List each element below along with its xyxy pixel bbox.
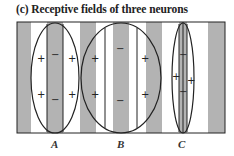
label-c: C <box>178 138 186 150</box>
minus-sign: − <box>179 86 187 97</box>
minus-sign: − <box>51 94 59 105</box>
plus-sign: + <box>91 53 99 64</box>
plus-sign: + <box>68 89 76 100</box>
plus-sign: + <box>37 53 45 64</box>
plus-sign: + <box>141 89 149 100</box>
minus-sign: − <box>51 49 59 60</box>
minus-sign: − <box>179 49 187 60</box>
plus-sign: + <box>187 75 195 86</box>
plus-sign: + <box>91 89 99 100</box>
label-b: B <box>116 138 124 150</box>
plus-sign: + <box>68 53 76 64</box>
label-a: A <box>50 138 58 150</box>
plus-sign: + <box>37 89 45 100</box>
plus-sign: + <box>141 53 149 64</box>
plus-sign: + <box>172 71 180 82</box>
minus-sign: − <box>116 95 124 106</box>
receptive-field-diagram: + + + + − − + + + + − − + + − − A B C <box>0 0 234 156</box>
minus-sign: − <box>116 43 124 54</box>
